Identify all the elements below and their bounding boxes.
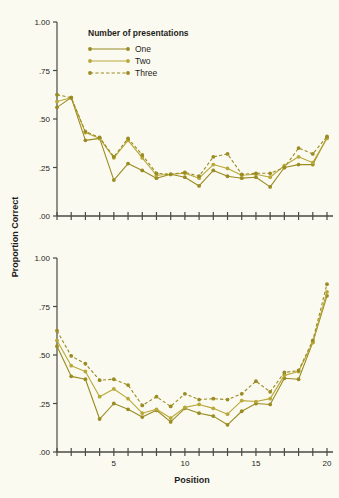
data-point-two	[169, 416, 173, 420]
data-point-three	[211, 155, 215, 159]
data-point-three	[240, 392, 244, 396]
data-point-one	[140, 415, 144, 419]
y-tick-label: .25	[39, 400, 51, 409]
data-point-one	[211, 169, 215, 173]
data-point-two	[211, 163, 215, 167]
data-point-one	[183, 175, 187, 179]
data-point-one	[140, 169, 144, 173]
data-point-three	[325, 135, 329, 139]
y-tick-label: .25	[39, 164, 51, 173]
data-point-three	[254, 171, 258, 175]
chart-canvas: .00.25.50.751.00 .00.25.50.751.005101520…	[0, 0, 339, 498]
data-point-one	[211, 414, 215, 418]
data-point-one	[126, 162, 130, 166]
legend-marker-one	[88, 47, 92, 51]
data-point-two	[297, 155, 301, 159]
data-point-three	[69, 96, 73, 100]
data-point-one	[98, 417, 102, 421]
data-point-three	[282, 371, 286, 375]
legend-marker-three	[88, 71, 92, 75]
data-point-two	[211, 406, 215, 410]
data-point-one	[84, 138, 88, 142]
data-point-two	[183, 405, 187, 409]
legend-label-three: Three	[135, 68, 157, 78]
data-point-one	[112, 402, 116, 406]
data-point-one	[169, 420, 173, 424]
data-point-three	[297, 146, 301, 150]
data-point-one	[197, 411, 201, 415]
data-point-two	[98, 395, 102, 399]
data-point-one	[55, 344, 59, 348]
data-point-three	[183, 170, 187, 174]
data-point-three	[55, 93, 59, 97]
data-point-three	[325, 282, 329, 286]
data-point-one	[226, 174, 230, 178]
x-axis-title: Position	[174, 475, 210, 485]
data-point-two	[226, 412, 230, 416]
data-point-one	[297, 163, 301, 167]
data-point-two	[311, 161, 315, 165]
data-point-three	[197, 398, 201, 402]
data-point-two	[55, 339, 59, 343]
data-point-three	[155, 171, 159, 175]
legend-label-one: One	[135, 44, 151, 54]
y-tick-label: 1.00	[34, 18, 50, 27]
data-point-three	[226, 152, 230, 156]
data-point-three	[69, 354, 73, 358]
data-point-two	[126, 397, 130, 401]
y-axis-title: Proportion Correct	[10, 197, 20, 278]
data-point-two	[140, 411, 144, 415]
data-point-three	[197, 174, 201, 178]
x-tick-label: 15	[251, 459, 260, 468]
data-point-three	[140, 153, 144, 157]
y-tick-label: .00	[39, 212, 51, 221]
y-tick-label: .75	[39, 303, 51, 312]
serial-position-figure: .00.25.50.751.00 .00.25.50.751.005101520…	[0, 0, 339, 498]
data-point-three	[98, 136, 102, 140]
data-point-three	[112, 155, 116, 159]
data-point-three	[155, 395, 159, 399]
legend-marker-two	[88, 59, 92, 63]
data-point-three	[282, 166, 286, 170]
data-point-three	[140, 404, 144, 408]
data-point-three	[268, 390, 272, 394]
data-point-three	[254, 379, 258, 383]
data-point-two	[268, 397, 272, 401]
data-point-one	[126, 407, 130, 411]
data-point-two	[55, 100, 59, 104]
legend-label-two: Two	[135, 56, 151, 66]
data-point-three	[311, 339, 315, 343]
data-point-one	[69, 374, 73, 378]
data-point-one	[268, 403, 272, 407]
legend-marker-end-three	[126, 71, 130, 75]
data-point-two	[268, 175, 272, 179]
data-point-one	[240, 409, 244, 413]
y-tick-label: 1.00	[34, 254, 50, 263]
data-point-one	[197, 184, 201, 188]
data-point-three	[84, 362, 88, 366]
data-point-three	[226, 398, 230, 402]
data-point-two	[197, 403, 201, 407]
x-tick-label: 20	[323, 459, 332, 468]
data-point-two	[112, 387, 116, 391]
y-tick-label: .75	[39, 67, 51, 76]
data-point-three	[240, 172, 244, 176]
data-point-two	[226, 167, 230, 171]
legend-marker-end-one	[126, 47, 130, 51]
data-point-one	[297, 377, 301, 381]
data-point-three	[169, 172, 173, 176]
data-point-three	[268, 171, 272, 175]
legend-title: Number of presentations	[88, 28, 189, 38]
data-point-three	[55, 329, 59, 333]
data-point-three	[84, 130, 88, 134]
data-point-two	[84, 370, 88, 374]
data-point-three	[169, 405, 173, 409]
data-point-three	[126, 137, 130, 141]
data-point-two	[325, 290, 329, 294]
data-point-three	[98, 378, 102, 382]
y-tick-label: .50	[39, 351, 51, 360]
data-point-one	[268, 185, 272, 189]
data-point-three	[311, 152, 315, 156]
data-point-one	[112, 178, 116, 182]
data-point-three	[126, 383, 130, 387]
